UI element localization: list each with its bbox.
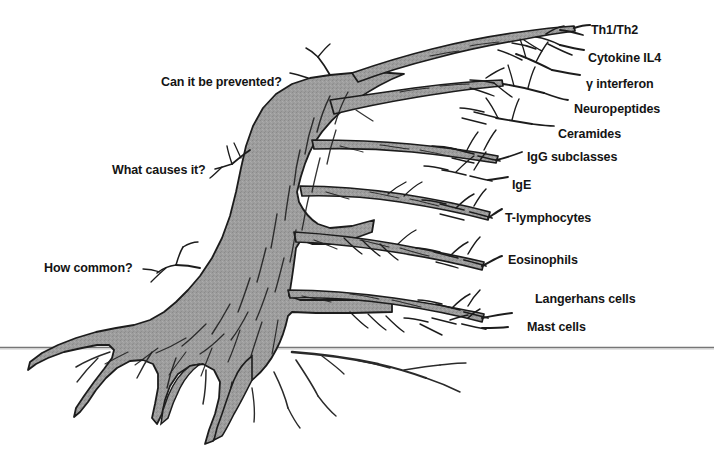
label-th1-th2: Th1/Th2: [591, 23, 638, 37]
label-how-common: How common?: [44, 261, 132, 275]
ground-line-group: [0, 348, 714, 350]
label-cytokine-il4: Cytokine IL4: [588, 51, 661, 65]
label-what-causes-it: What causes it?: [112, 163, 206, 177]
label-ceramides: Ceramides: [558, 127, 621, 141]
tree-illustration: [0, 0, 714, 452]
label-t-lymphocytes: T-lymphocytes: [505, 211, 591, 225]
root-twigs: [76, 352, 466, 428]
label-langerhans-cells: Langerhans cells: [535, 292, 636, 306]
label-ige: IgE: [512, 178, 531, 192]
label-gamma-interferon: γ interferon: [586, 77, 654, 91]
label-can-it-be-prevented: Can it be prevented?: [161, 75, 282, 89]
label-igg-subclasses: IgG subclasses: [527, 150, 617, 164]
label-neuropeptides: Neuropeptides: [574, 102, 660, 116]
label-eosinophils: Eosinophils: [508, 253, 578, 267]
major-branches: [288, 26, 575, 322]
tree-figure: Can it be prevented? What causes it? How…: [0, 0, 714, 452]
tree-trunk: [28, 72, 404, 444]
label-mast-cells: Mast cells: [527, 320, 586, 334]
